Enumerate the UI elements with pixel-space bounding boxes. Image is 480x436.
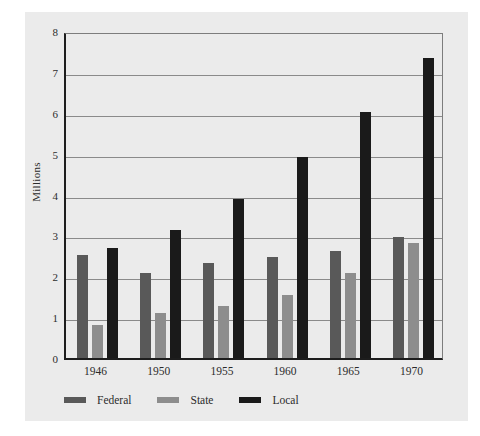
y-axis-tick-label: 4 (0, 191, 58, 202)
y-axis-tick-label: 1 (0, 313, 58, 324)
bar-state-1970 (408, 243, 419, 358)
bar-local-1970 (423, 58, 434, 358)
bar-group (192, 34, 255, 358)
bar-local-1965 (360, 112, 371, 358)
y-axis-title: Millions (30, 142, 42, 222)
chart-figure: 012345678 Millions 194619501955196019651… (0, 0, 480, 436)
bar-federal-1960 (267, 257, 278, 358)
bar-state-1965 (345, 273, 356, 358)
bar-state-1950 (155, 313, 166, 358)
legend-item-state[interactable]: State (157, 394, 213, 406)
bar-state-1955 (218, 306, 229, 358)
legend-item-federal[interactable]: Federal (64, 394, 131, 406)
bar-local-1960 (297, 157, 308, 359)
bar-group (256, 34, 319, 358)
y-axis-tick-label: 2 (0, 272, 58, 283)
y-axis-tick-label: 7 (0, 68, 58, 79)
legend-swatch-local (239, 397, 261, 403)
bar-group (319, 34, 382, 358)
bar-federal-1950 (140, 273, 151, 358)
x-axis-tick-label: 1970 (380, 366, 443, 378)
bar-group (66, 34, 129, 358)
x-axis-tick-label: 1946 (64, 366, 127, 378)
x-axis-tick-label: 1950 (127, 366, 190, 378)
bar-federal-1955 (203, 263, 214, 358)
bar-state-1960 (282, 295, 293, 358)
bar-federal-1965 (330, 251, 341, 358)
y-axis-tick-label: 5 (0, 150, 58, 161)
legend-label: Local (272, 394, 298, 406)
legend-label: Federal (97, 394, 131, 406)
bar-group (129, 34, 192, 358)
bar-federal-1946 (77, 255, 88, 358)
x-axis-ticks: 194619501955196019651970 (64, 366, 443, 384)
bar-local-1950 (170, 230, 181, 358)
chart-legend: FederalStateLocal (64, 392, 325, 408)
y-axis-ticks: 012345678 (0, 0, 58, 436)
bar-state-1946 (92, 325, 103, 358)
y-axis-tick-label: 0 (0, 354, 58, 365)
y-axis-tick-label: 3 (0, 231, 58, 242)
bar-local-1946 (107, 248, 118, 358)
x-axis-tick-label: 1965 (317, 366, 380, 378)
bar-federal-1970 (393, 237, 404, 358)
legend-item-local[interactable]: Local (239, 394, 298, 406)
y-axis-tick-label: 8 (0, 27, 58, 38)
plot-area (64, 33, 443, 360)
y-axis-tick-label: 6 (0, 109, 58, 120)
legend-label: State (190, 394, 213, 406)
bar-group (382, 34, 445, 358)
bar-local-1955 (233, 199, 244, 358)
x-axis-tick-label: 1955 (190, 366, 253, 378)
legend-swatch-federal (64, 397, 86, 403)
legend-swatch-state (157, 397, 179, 403)
x-axis-tick-label: 1960 (254, 366, 317, 378)
